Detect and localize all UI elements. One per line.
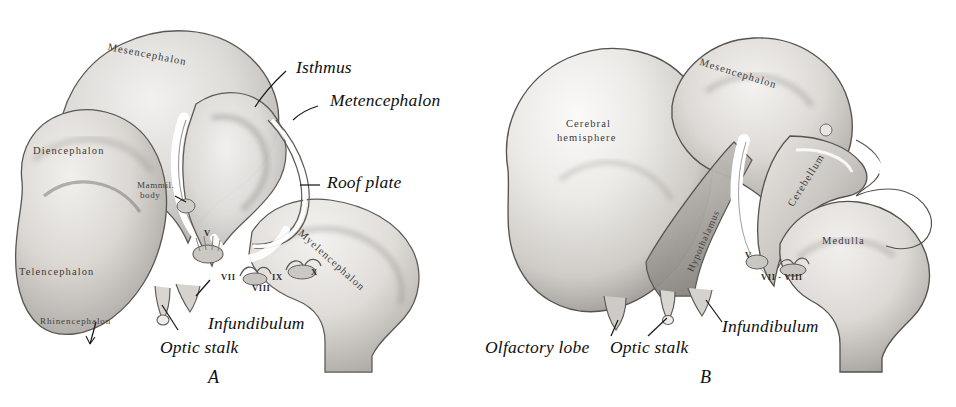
label-telencephalon-a: Telencephalon: [19, 266, 94, 277]
panel-caption-a: A: [208, 367, 219, 388]
label-nerve-vii-viii-b: VII - VIII: [761, 272, 803, 282]
label-nerve-viii-a: VIII: [252, 283, 270, 293]
label-mammillary-body-line2: body: [140, 190, 160, 200]
infundibulum-shape-a: [176, 284, 200, 312]
medulla-shape: [780, 201, 930, 372]
label-optic-stalk-b: Optic stalk: [610, 337, 689, 358]
label-isthmus: Isthmus: [296, 57, 352, 78]
label-nerve-vii-a: VII: [221, 272, 236, 282]
figure-canvas: [0, 0, 956, 407]
panel-b-illustration: [506, 38, 931, 372]
label-nerve-v-b: V: [745, 250, 752, 260]
label-nerve-x-a: X: [311, 267, 318, 277]
label-cerebral-hemisphere-line1: Cerebral: [566, 118, 611, 129]
label-optic-stalk-a: Optic stalk: [160, 337, 239, 358]
label-diencephalon-a: Diencephalon: [33, 145, 105, 156]
panel-caption-b: B: [700, 367, 711, 388]
embryonic-brain-figure: Mesencephalon Diencephalon Telencephalon…: [0, 0, 956, 407]
leader-optic-stalk-b: [648, 318, 667, 336]
label-mammillary-body-line1: Mammil.: [137, 180, 174, 190]
leader-metencephalon: [293, 106, 318, 120]
myelencephalon-shape: [249, 199, 419, 372]
label-nerve-ix-a: IX: [272, 272, 283, 282]
label-cerebral-hemisphere-line2: hemisphere: [557, 132, 616, 143]
label-metencephalon: Metencephalon: [330, 90, 440, 111]
label-roof-plate: Roof plate: [327, 172, 401, 193]
label-infundibulum-b: Infundibulum: [722, 316, 819, 337]
leader-infundibulum-b: [706, 300, 722, 322]
olfactory-lobe-shape: [604, 296, 626, 330]
label-olfactory-lobe-b: Olfactory lobe: [485, 337, 589, 358]
label-rhinencephalon-a: Rhinencephalon: [40, 316, 111, 326]
telencephalon-shape: [16, 110, 167, 335]
label-infundibulum-a: Infundibulum: [208, 313, 305, 334]
label-medulla-b: Medulla: [822, 235, 865, 246]
infundibulum-shape-b: [688, 288, 712, 316]
label-nerve-v-a: V: [204, 228, 211, 238]
mammillary-body-shape: [177, 199, 195, 213]
